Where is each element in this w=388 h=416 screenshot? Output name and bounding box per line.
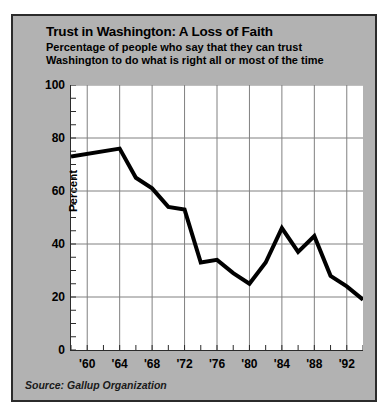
x-tick-label: '72 [176,357,192,371]
y-tick-label: 60 [52,184,65,198]
y-tick-label: 100 [45,78,65,92]
chart-subtitle-line-1: Percentage of people who say that they c… [46,41,356,54]
x-tick-label: '84 [274,357,290,371]
x-tick-label: '64 [112,357,128,371]
x-tick-label: '76 [209,357,225,371]
y-tick-label: 40 [52,237,65,251]
y-tick-label: 20 [52,290,65,304]
title-block: Trust in Washington: A Loss of Faith Per… [46,24,356,66]
plot-area: Percent 020406080100'60'64'68'72'76'80'8… [70,85,363,351]
x-tick-label: '68 [144,357,160,371]
source-note: Source: Gallup Organization [25,379,167,391]
y-tick-label: 80 [52,131,65,145]
page-title: Trust in Washington: A Loss of Faith [46,24,356,40]
chart-subtitle-line-2: Washington to do what is right all or mo… [46,54,356,67]
y-tick-label: 0 [58,343,65,357]
x-tick-label: '92 [339,357,355,371]
gridlines [71,85,363,350]
x-tick-label: '88 [306,357,322,371]
x-tick-label: '80 [241,357,257,371]
chart-plot-svg [71,85,363,350]
chart-figure: Trust in Washington: A Loss of Faith Per… [11,14,377,402]
x-tick-label: '60 [79,357,95,371]
chart-subtitle: Percentage of people who say that they c… [46,41,356,66]
